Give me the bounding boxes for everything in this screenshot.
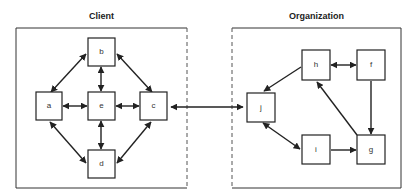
edge-h-j — [264, 67, 301, 91]
svg-text:b: b — [99, 47, 104, 56]
node-h: h — [302, 50, 330, 80]
svg-text:h: h — [314, 60, 318, 69]
node-j: j — [247, 93, 275, 122]
node-e: e — [88, 92, 115, 120]
node-b: b — [88, 38, 115, 66]
edge-a-b — [51, 54, 86, 92]
node-c: c — [140, 92, 167, 120]
edge-c-d — [117, 122, 151, 163]
node-g: g — [357, 135, 385, 164]
node-i: i — [302, 135, 330, 164]
edge-b-c — [117, 54, 152, 92]
svg-text:g: g — [369, 145, 373, 154]
svg-text:e: e — [99, 101, 104, 110]
svg-text:i: i — [315, 145, 317, 154]
edge-j-i — [263, 123, 300, 149]
node-f: f — [357, 50, 385, 80]
edge-g-h — [317, 82, 357, 135]
svg-text:j: j — [259, 103, 262, 112]
node-a: a — [36, 92, 62, 120]
svg-text:c: c — [152, 101, 156, 110]
node-d: d — [88, 150, 115, 178]
svg-text:d: d — [99, 159, 103, 168]
edge-a-d — [50, 122, 86, 163]
diagram-canvas: b a e c d h f j i g — [0, 0, 415, 196]
svg-text:a: a — [47, 101, 52, 110]
